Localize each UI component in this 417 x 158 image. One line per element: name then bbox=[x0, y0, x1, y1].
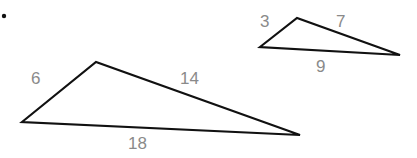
diagram-canvas bbox=[0, 0, 417, 158]
large-side-14-label: 14 bbox=[180, 70, 199, 87]
small-side-7-label: 7 bbox=[336, 13, 345, 30]
small-side-9-label: 9 bbox=[316, 58, 325, 75]
large-side-18-label: 18 bbox=[128, 135, 147, 152]
bullet-dot bbox=[2, 14, 6, 18]
small-side-3-label: 3 bbox=[260, 13, 269, 30]
large-triangle bbox=[22, 62, 300, 135]
small-triangle bbox=[260, 18, 400, 55]
large-side-6-label: 6 bbox=[31, 70, 40, 87]
